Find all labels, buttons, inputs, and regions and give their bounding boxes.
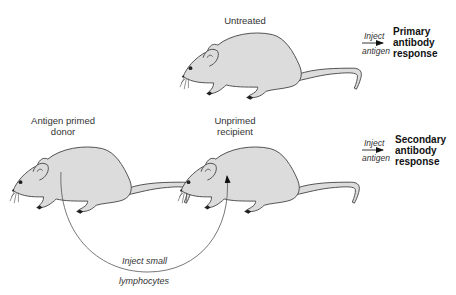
result-secondary-line3: response [395,156,446,167]
antigen-label-secondary: antigen [362,153,390,163]
result-secondary: Secondary antibody response [395,134,446,167]
label-donor: Antigen primed donor [18,115,108,137]
result-secondary-line1: Secondary [395,134,446,145]
diagram-canvas [0,0,456,295]
result-primary-line3: response [393,48,437,59]
mouse-donor [10,147,191,214]
result-primary-line2: antibody [393,37,437,48]
label-donor-line1: Antigen primed [18,115,108,126]
result-primary: Primary antibody response [393,26,437,59]
result-secondary-line2: antibody [395,145,446,156]
antigen-label-primary: antigen [362,46,390,56]
mouse-recipient [178,147,359,214]
inject-label-primary: Inject [364,31,384,41]
result-primary-line1: Primary [393,26,437,37]
label-recipient-line2: recipient [190,126,280,137]
mouse-untreated [180,33,361,100]
transfer-label-above: Inject small [122,256,167,266]
label-untreated: Untreated [200,15,290,26]
inject-label-secondary: Inject [364,138,384,148]
transfer-label-below: lymphocytes [119,276,169,286]
label-recipient: Unprimed recipient [190,115,280,137]
label-donor-line2: donor [18,126,108,137]
label-recipient-line1: Unprimed [190,115,280,126]
